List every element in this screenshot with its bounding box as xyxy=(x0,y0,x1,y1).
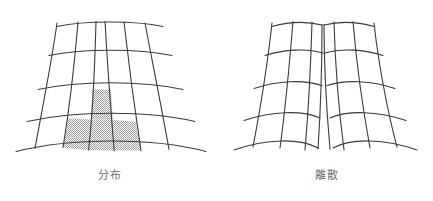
shaded-cell-r4c3 xyxy=(89,119,115,150)
figure-panel-distribution: 分布 xyxy=(0,0,220,201)
horizontal-curve-1 xyxy=(57,22,163,27)
figure-page: 分布 xyxy=(0,0,433,201)
discrete-right-horizontal-2 xyxy=(325,50,383,56)
discrete-right-horizontal-5 xyxy=(333,141,417,150)
discrete-left-horizontal-1 xyxy=(272,22,322,26)
discrete-right-vertical-4 xyxy=(374,23,397,147)
discrete-left-half xyxy=(234,22,323,151)
figure-panel-discrete: 離散 xyxy=(220,0,433,201)
discrete-left-horizontal-2 xyxy=(265,50,323,56)
discrete-left-horizontal-4 xyxy=(244,113,320,121)
discrete-left-vertical-2 xyxy=(280,22,293,149)
discrete-right-horizontal-4 xyxy=(330,113,406,121)
discrete-right-vertical-2 xyxy=(334,22,344,150)
discrete-right-half xyxy=(324,22,417,151)
discrete-grid-diagram xyxy=(220,0,433,165)
discrete-left-vertical-4 xyxy=(318,25,322,150)
discrete-right-horizontal-1 xyxy=(324,22,374,26)
discrete-right-vertical-1 xyxy=(324,25,330,150)
vertical-fan-1 xyxy=(35,23,57,149)
distribution-grid-diagram xyxy=(0,0,220,165)
discrete-left-vertical-1 xyxy=(253,23,272,147)
discrete-right-vertical-3 xyxy=(353,22,370,149)
caption-discrete: 離散 xyxy=(220,166,433,182)
horizontal-curve-2 xyxy=(49,50,172,55)
discrete-left-vertical-3 xyxy=(305,22,312,150)
horizontal-curve-3 xyxy=(38,83,183,90)
caption-distribution: 分布 xyxy=(0,166,220,182)
